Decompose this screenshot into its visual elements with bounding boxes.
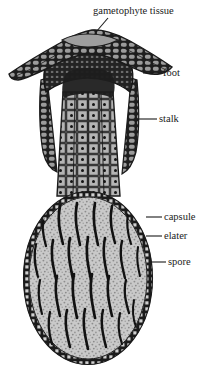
label-stalk: stalk <box>159 114 179 125</box>
stalk-part <box>57 92 120 196</box>
figure-canvas: gametophyte tissue foot stalk capsule el… <box>0 0 211 377</box>
label-foot: foot <box>163 68 180 79</box>
label-gametophyte-tissue: gametophyte tissue <box>93 6 174 17</box>
sporophyte-diagram <box>0 0 211 377</box>
label-capsule: capsule <box>164 212 196 223</box>
label-elater: elater <box>164 231 187 242</box>
label-spore: spore <box>168 257 191 268</box>
capsule-part <box>24 192 153 365</box>
